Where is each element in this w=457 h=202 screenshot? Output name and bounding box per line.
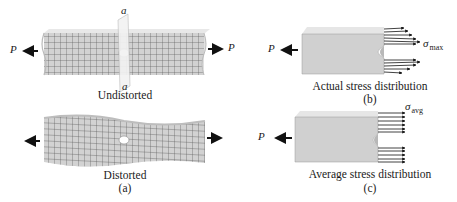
caption-average-stress: Average stress distribution xyxy=(295,168,445,180)
section-label-top: a xyxy=(121,4,127,16)
subscript-max: max xyxy=(429,43,443,52)
caption-actual-stress: Actual stress distribution xyxy=(300,80,440,92)
caption-distorted: Distorted xyxy=(80,169,170,181)
actual-stress-bar xyxy=(302,27,384,74)
panel-label-a: (a) xyxy=(100,182,150,194)
distorted-bar xyxy=(44,116,205,167)
panel-label-c: (c) xyxy=(345,182,395,194)
actual-stress-arrows xyxy=(384,28,420,73)
stress-label-avg: σavg xyxy=(405,100,423,112)
load-label-b: P xyxy=(268,42,275,54)
average-stress-bar xyxy=(295,111,378,162)
sigma-symbol: σ xyxy=(423,37,428,49)
stress-label-max: σmax xyxy=(423,37,443,49)
sigma-symbol: σ xyxy=(405,100,410,112)
load-label-c: P xyxy=(258,130,265,142)
load-label-left-top: P xyxy=(10,43,17,55)
load-label-right-top: P xyxy=(228,41,235,53)
subscript-avg: avg xyxy=(411,106,423,115)
caption-undistorted: Undistorted xyxy=(80,89,170,101)
panel-label-b: (b) xyxy=(345,93,395,105)
average-stress-arrows xyxy=(378,113,405,162)
